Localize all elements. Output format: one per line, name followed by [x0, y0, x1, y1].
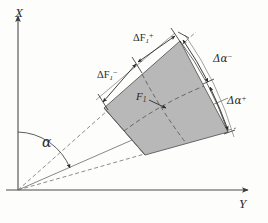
delta-alpha-plus-label: Δα+	[227, 95, 246, 107]
y-axis-label: Y	[239, 197, 246, 210]
delta-alpha-minus-sup: −	[228, 52, 233, 61]
delta-f-minus-sup: −	[113, 68, 118, 77]
x-axis-label: X	[15, 6, 23, 19]
sector-cell-group	[104, 41, 228, 155]
delta-alpha-minus-base: Δα	[213, 52, 228, 64]
center-point-sub: 1	[143, 95, 147, 104]
delta-alpha-minus-label: Δα−	[213, 53, 232, 65]
delta-alpha-plus-base: Δα	[227, 94, 242, 106]
sector-cell-fill	[104, 41, 228, 155]
center-point-label: F1	[136, 91, 146, 104]
delta-f-minus-label: ΔF1−	[97, 69, 118, 82]
delta-f-mid-tick	[132, 57, 142, 73]
delta-alpha-plus-sup: +	[242, 94, 247, 103]
delta-f-plus-label: ΔF1+	[133, 32, 154, 45]
delta-alpha-start-tick	[178, 32, 189, 38]
center-point-base: F	[136, 90, 143, 102]
figure-container: X Y α ΔF1+ ΔF1− Δα− Δα+ F1	[0, 0, 268, 223]
delta-f-plus-sup: +	[149, 31, 154, 40]
alpha-angle-label: α	[42, 135, 51, 149]
delta-f-plus-base: ΔF	[133, 32, 146, 43]
delta-f-minus-base: ΔF	[97, 69, 110, 80]
